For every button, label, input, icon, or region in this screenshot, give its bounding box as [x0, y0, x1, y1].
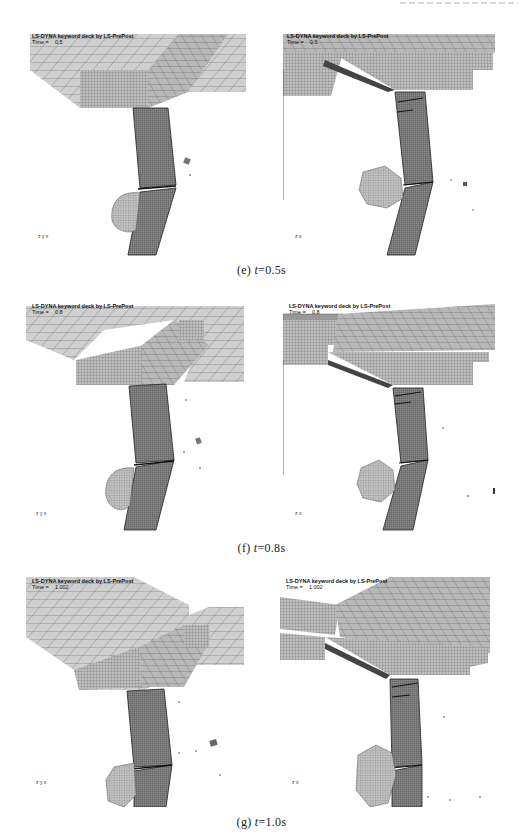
mesh-render: [24, 575, 249, 807]
axis-triad-icon: z y x: [38, 233, 48, 239]
mesh-render: [280, 575, 515, 807]
sim-panel-e-left: LS-DYNA keyword deck by LS-PrePost Time …: [28, 30, 248, 260]
axis-triad-icon: z y x: [36, 779, 46, 785]
time-value: 1.002: [309, 584, 323, 590]
time-label: Time =: [32, 584, 49, 590]
time-value: 1.002: [55, 584, 69, 590]
time-label: Time =: [287, 39, 304, 45]
figure-caption-f: (f) t=0.8s: [0, 541, 523, 556]
sim-panel-f-right: LS-DYNA keyword deck by LS-PrePost Time …: [283, 300, 515, 532]
sim-panel-g-right: LS-DYNA keyword deck by LS-PrePost Time …: [280, 575, 515, 807]
axis-triad-icon: z y x: [36, 510, 46, 516]
page-header-rule: [400, 2, 518, 4]
time-value: 0.8: [55, 309, 63, 315]
time-value: 0.5: [55, 39, 63, 45]
time-label: Time =: [32, 39, 49, 45]
time-value: 0.5: [310, 39, 318, 45]
time-label: Time =: [289, 309, 306, 315]
sim-panel-g-left: LS-DYNA keyword deck by LS-PrePost Time …: [24, 575, 249, 807]
axis-triad-icon: z x: [295, 510, 301, 516]
mesh-render: [28, 30, 248, 260]
time-value: 0.8: [312, 309, 320, 315]
figure-caption-e: (e) t=0.5s: [0, 263, 523, 278]
mesh-render: [283, 30, 513, 260]
axis-triad-icon: z x: [292, 779, 298, 785]
sim-panel-e-right: LS-DYNA keyword deck by LS-PrePost Time …: [283, 30, 513, 260]
time-label: Time =: [286, 584, 303, 590]
mesh-render: [283, 300, 515, 532]
figure-caption-g: (g) t=1.0s: [0, 815, 523, 830]
axis-triad-icon: z x: [295, 233, 301, 239]
sim-panel-f-left: LS-DYNA keyword deck by LS-PrePost Time …: [24, 300, 249, 532]
time-label: Time =: [32, 309, 49, 315]
mesh-render: [24, 300, 249, 532]
